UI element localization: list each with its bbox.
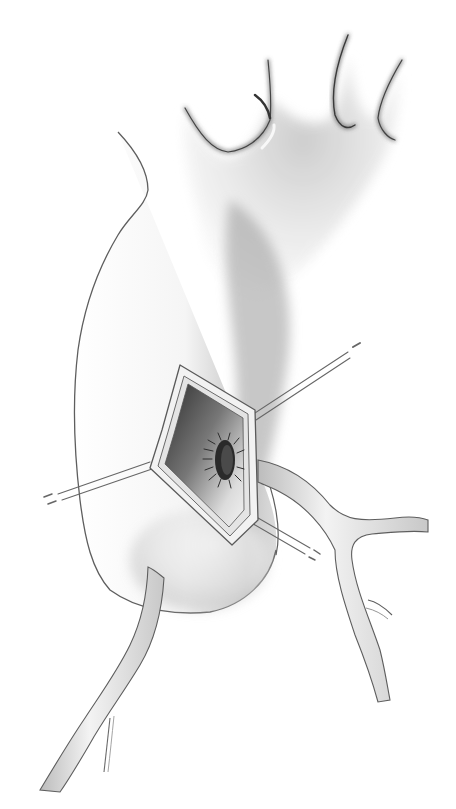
right-branch-artery — [258, 460, 428, 702]
illustration — [0, 0, 456, 809]
aorta-illustration — [0, 0, 456, 809]
lower-branch-artery — [40, 567, 164, 792]
